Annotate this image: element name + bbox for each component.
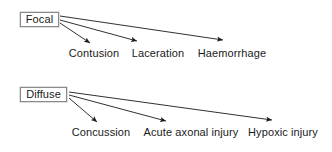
arrow-group	[60, 16, 272, 122]
leaf-label-acute-axonal-injury[interactable]: Acute axonal injury	[144, 127, 239, 138]
leaf-label-haemorrhage[interactable]: Haemorrhage	[198, 48, 266, 59]
arrow-focal-to-haemorrhage	[60, 16, 223, 40]
node-focal[interactable]: Focal	[20, 12, 59, 27]
node-diffuse[interactable]: Diffuse	[20, 87, 67, 102]
leaf-label-contusion[interactable]: Contusion	[69, 48, 119, 59]
arrow-diffuse-to-hypoxic-injury	[69, 92, 272, 120]
leaf-label-laceration[interactable]: Laceration	[132, 48, 184, 59]
arrow-focal-to-contusion	[60, 23, 90, 43]
leaf-label-concussion[interactable]: Concussion	[72, 127, 130, 138]
leaf-label-hypoxic-injury[interactable]: Hypoxic injury	[248, 127, 318, 138]
diagram-canvas: Focal Contusion Laceration Haemorrhage D…	[0, 0, 332, 152]
